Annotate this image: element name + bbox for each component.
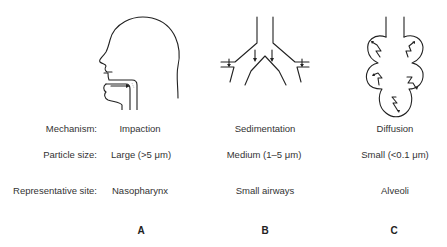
bronchi-icon xyxy=(215,15,315,95)
figure-b-airway xyxy=(215,15,315,95)
mechanism-b: Sedimentation xyxy=(235,123,296,134)
particle-size-c: Small (<0.1 μm) xyxy=(361,149,429,160)
site-c: Alveoli xyxy=(381,185,409,196)
particle-size-a: Large (>5 μm) xyxy=(111,149,171,160)
panel-letter-c: C xyxy=(390,225,397,236)
figure-c-alveoli xyxy=(360,15,430,120)
row-label-site: Representative site: xyxy=(13,185,97,196)
figure-a-head xyxy=(90,10,190,110)
panel-letter-b: B xyxy=(261,225,268,236)
row-label-mechanism: Mechanism: xyxy=(46,123,97,134)
site-a: Nasopharynx xyxy=(112,185,168,196)
alveoli-icon xyxy=(360,15,430,120)
site-b: Small airways xyxy=(236,185,295,196)
particle-size-b: Medium (1–5 μm) xyxy=(227,149,302,160)
panel-letter-a: A xyxy=(137,225,144,236)
head-icon xyxy=(90,10,190,110)
mechanism-a: Impaction xyxy=(119,123,160,134)
row-label-particle-size: Particle size: xyxy=(43,149,97,160)
mechanism-c: Diffusion xyxy=(377,123,414,134)
